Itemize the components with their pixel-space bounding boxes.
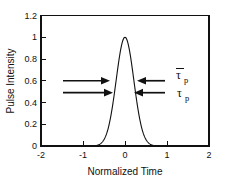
tau-bar-p-subscript: p xyxy=(184,75,188,85)
pulse-curve xyxy=(41,37,209,146)
x-tick-label: -1 xyxy=(79,150,87,160)
y-tick-label: 0.4 xyxy=(24,98,37,108)
x-tick-label: 2 xyxy=(206,150,211,160)
x-axis-ticks xyxy=(41,141,209,146)
y-axis-tick-labels: 0 0.2 0.4 0.6 0.8 1 1.2 xyxy=(24,11,37,152)
y-tick-label: 0.6 xyxy=(24,76,37,86)
x-tick-label: 0 xyxy=(122,150,127,160)
x-tick-label: 1 xyxy=(164,150,169,160)
y-tick-label: 0.8 xyxy=(24,54,37,64)
x-tick-label: -2 xyxy=(37,150,45,160)
x-axis-title: Normalized Time xyxy=(87,166,162,177)
tau-bar-p-symbol: τ xyxy=(176,68,181,82)
y-tick-label: 1.2 xyxy=(24,11,37,21)
y-tick-label: 0.2 xyxy=(24,119,37,129)
tau-p-left-arrow xyxy=(63,89,113,97)
x-axis-tick-labels: -2 -1 0 1 2 xyxy=(37,150,212,160)
y-axis-ticks xyxy=(41,16,46,147)
y-axis-title: Pulse Intensity xyxy=(5,48,16,113)
pulse-intensity-figure: 0 0.2 0.4 0.6 0.8 1 1.2 -2 -1 0 1 2 Norm… xyxy=(0,0,226,187)
tau-p-subscript: p xyxy=(185,93,189,103)
chart-canvas: 0 0.2 0.4 0.6 0.8 1 1.2 -2 -1 0 1 2 Norm… xyxy=(0,0,226,187)
tau-bar-p-left-arrow xyxy=(63,77,110,85)
y-tick-label: 1 xyxy=(32,32,37,42)
tau-p-right-arrow xyxy=(134,89,165,97)
tau-bar-p-right-arrow xyxy=(137,77,165,85)
annotation-tau-bar-p: τ p xyxy=(63,68,188,85)
annotation-tau-p: τ p xyxy=(63,86,189,103)
tau-p-symbol: τ xyxy=(177,86,182,100)
